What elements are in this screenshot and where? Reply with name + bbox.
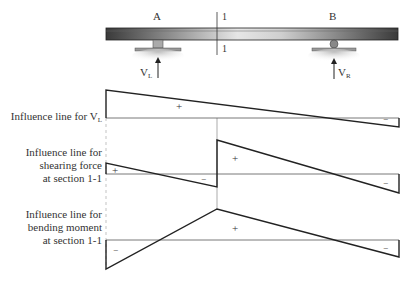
influence-line-shear: [106, 140, 399, 193]
beam: [106, 28, 398, 40]
sign-vl-plus: +: [176, 100, 182, 113]
sign-shear-minus-right: −: [383, 177, 388, 190]
sign-moment-minus-right: −: [383, 242, 388, 255]
sign-shear-plus-right: +: [232, 152, 238, 165]
section-label-bottom: 1: [222, 42, 227, 55]
title-moment: Influence line for bending moment at sec…: [0, 208, 102, 247]
sign-shear-plus-left: +: [112, 164, 118, 177]
sign-shear-minus-left: −: [201, 173, 206, 186]
section-label-top: 1: [222, 10, 227, 23]
influence-line-moment: [106, 209, 399, 269]
sign-moment-plus: +: [232, 222, 238, 235]
support-b-label: B: [329, 10, 336, 23]
title-vl: Influence line for VL: [0, 110, 102, 127]
sign-moment-minus-left: −: [113, 244, 118, 257]
influence-line-vl: [106, 90, 399, 127]
reaction-label-left: VL: [140, 66, 152, 83]
support-a-label: A: [153, 10, 161, 23]
sign-vl-minus: −: [383, 113, 388, 126]
title-shear: Influence line for shearing force at sec…: [0, 146, 102, 185]
reaction-label-right: VR: [338, 66, 351, 83]
